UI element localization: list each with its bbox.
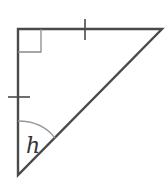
angle-label: h: [26, 133, 40, 158]
right-angle-marker: [18, 29, 41, 52]
triangle-diagram: h: [0, 0, 165, 184]
